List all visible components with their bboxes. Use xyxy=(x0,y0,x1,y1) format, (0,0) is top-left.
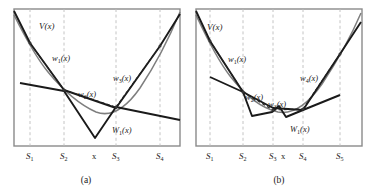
axis-tick-labels: S1 S2 x S3 S4 xyxy=(26,151,164,162)
axis-tick-labels: S1 S2 S3 x S4 S5 xyxy=(206,151,344,162)
label-w1: w1(x) xyxy=(228,54,246,65)
svg-text:w2(x): w2(x) xyxy=(245,92,263,103)
knot-dot xyxy=(63,89,66,92)
tick-s3: S3 xyxy=(269,151,277,162)
panel-a-caption: (a) xyxy=(81,175,92,186)
label-w3: w3(x) xyxy=(113,73,131,84)
label-w-capital-1: W1(x) xyxy=(112,125,132,136)
knot-dot xyxy=(302,108,305,111)
label-v-of-x: V(x) xyxy=(39,21,55,31)
tick-s1: S1 xyxy=(26,151,34,162)
label-w2: w2(x) xyxy=(245,92,263,103)
label-w4: w4(x) xyxy=(300,73,318,84)
knot-dot xyxy=(115,106,118,109)
label-w1: w1(x) xyxy=(52,53,70,64)
tick-x: x xyxy=(92,151,97,161)
lower-piecewise-w-capital xyxy=(20,83,180,138)
knot-dot xyxy=(159,45,162,48)
tick-s4: S4 xyxy=(156,151,164,162)
tick-s5: S5 xyxy=(336,151,344,162)
tick-s3: S3 xyxy=(112,151,120,162)
svg-text:W1(x): W1(x) xyxy=(112,125,132,136)
knot-dot xyxy=(209,40,212,43)
knot-dot xyxy=(29,42,32,45)
panel-b: V(x) w1(x) w2(x) w3(x) w4(x) W1(x) S1 S2… xyxy=(188,0,375,193)
label-w-capital-1: W1(x) xyxy=(290,124,310,135)
gridlines xyxy=(210,9,340,146)
panel-a: V(x) w1(x) w2(x) w3(x) W1(x) S1 S2 x S3 … xyxy=(0,0,187,193)
label-v-of-x: V(x) xyxy=(207,22,223,32)
svg-text:w2(x): w2(x) xyxy=(78,89,96,100)
knot-dot xyxy=(339,53,342,56)
tick-x: x xyxy=(281,151,286,161)
panel-b-svg: V(x) w1(x) w2(x) w3(x) w4(x) W1(x) S1 S2… xyxy=(188,0,375,193)
tick-s2: S2 xyxy=(60,151,68,162)
knot-dots xyxy=(209,40,342,112)
panel-a-svg: V(x) w1(x) w2(x) w3(x) W1(x) S1 S2 x S3 … xyxy=(0,0,187,193)
svg-text:W1(x): W1(x) xyxy=(290,124,310,135)
svg-text:w3(x): w3(x) xyxy=(113,73,131,84)
tick-s1: S1 xyxy=(206,151,214,162)
svg-text:w4(x): w4(x) xyxy=(300,73,318,84)
figure-container: V(x) w1(x) w2(x) w3(x) W1(x) S1 S2 x S3 … xyxy=(0,0,375,193)
label-w3: w3(x) xyxy=(268,99,286,110)
label-w2: w2(x) xyxy=(78,89,96,100)
tick-s4: S4 xyxy=(299,151,307,162)
svg-text:w1(x): w1(x) xyxy=(52,53,70,64)
tick-s2: S2 xyxy=(239,151,247,162)
panel-b-caption: (b) xyxy=(273,175,284,186)
svg-text:w1(x): w1(x) xyxy=(228,54,246,65)
svg-text:w3(x): w3(x) xyxy=(268,99,286,110)
